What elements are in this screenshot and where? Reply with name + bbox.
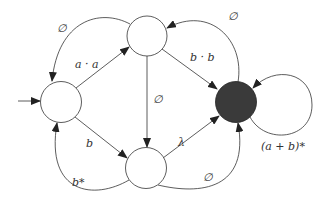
state-q3-final[interactable]	[216, 82, 257, 123]
label-q2-q0: b*	[72, 176, 85, 189]
state-q1[interactable]	[127, 16, 167, 56]
state-q2[interactable]	[126, 148, 167, 189]
label-q0-q1: a · a	[75, 58, 99, 71]
label-q1-q0: ∅	[57, 22, 67, 35]
state-q0-initial[interactable]	[41, 82, 82, 123]
edge-q2-q0[interactable]	[55, 123, 129, 190]
automaton-diagram: a · a ∅ b · b ∅ ∅ b b* λ ∅ (a + b)*	[0, 0, 325, 202]
edge-q3-q3-loop[interactable]	[250, 75, 312, 136]
label-q1-q3: b · b	[190, 51, 215, 64]
label-q0-q2: b	[86, 137, 93, 150]
label-q2-q3-empty: ∅	[203, 171, 213, 184]
label-q3-loop: (a + b)*	[261, 140, 305, 153]
edge-q2-q3-empty[interactable]	[158, 123, 240, 189]
label-q1-q2: ∅	[153, 93, 163, 106]
edge-q0-q2[interactable]	[75, 117, 127, 158]
label-q2-q3-lambda: λ	[177, 136, 185, 149]
label-q3-q1: ∅	[228, 10, 238, 23]
edge-q2-q3-lambda[interactable]	[163, 116, 219, 158]
